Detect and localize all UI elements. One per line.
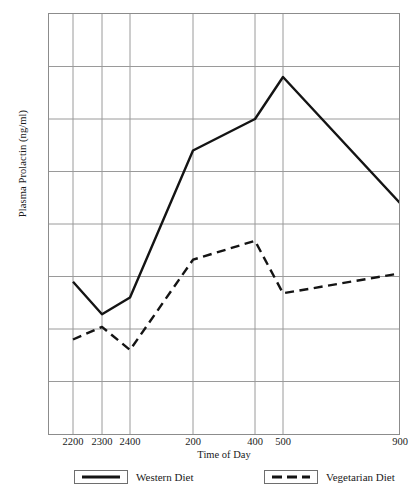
- plot-area: [48, 13, 400, 435]
- legend-entry-vegetarian-diet: Vegetarian Diet: [264, 470, 395, 484]
- y-axis-title: Plasma Prolactin (ng/ml): [17, 64, 28, 264]
- series-line-vegetarian-diet: [73, 241, 399, 350]
- prolactin-line-chart: Plasma Prolactin (ng/ml) 051015202530354…: [0, 0, 416, 501]
- plot-canvas: [49, 14, 399, 434]
- chart-legend: Western Diet Vegetarian Diet: [0, 470, 416, 494]
- series-line-western-diet: [73, 77, 399, 314]
- legend-label-vegetarian-diet: Vegetarian Diet: [326, 471, 395, 483]
- legend-label-western-diet: Western Diet: [136, 471, 193, 483]
- x-axis-title: Time of Day: [48, 449, 400, 460]
- x-axis-tick-label: 2400: [110, 437, 150, 448]
- legend-swatch-solid-line-icon: [74, 470, 128, 484]
- x-axis-tick-label: 200: [173, 437, 213, 448]
- x-axis-tick-label: 500: [263, 437, 303, 448]
- legend-swatch-dashed-line-icon: [264, 470, 318, 484]
- legend-entry-western-diet: Western Diet: [74, 470, 193, 484]
- x-axis-tick-label: 900: [380, 437, 416, 448]
